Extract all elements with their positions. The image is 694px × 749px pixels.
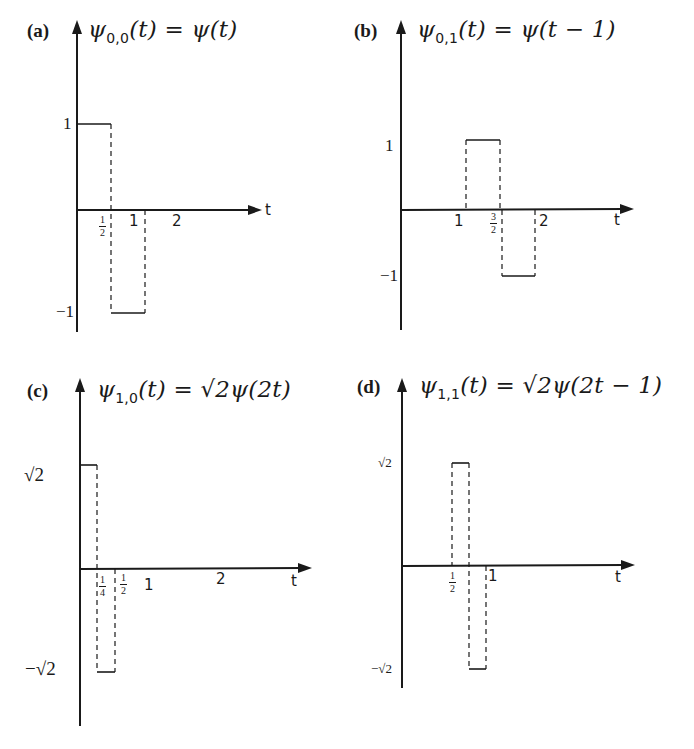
x-axis-label: t — [265, 201, 271, 219]
x-tick-half: 12 — [99, 215, 106, 238]
panel-d: (d) ψ1,1(t) = √2ψ(2t − 1) √2 −√2 12 1 t — [347, 370, 694, 749]
panel-title: ψ0,0(t) = ψ(t) — [88, 16, 237, 46]
panel-a: (a) ψ0,0(t) = ψ(t) 1 −1 12 1 2 t — [0, 0, 347, 340]
y-tick-neg-sqrt2: −√2 — [371, 661, 392, 677]
x-tick-quarter: 14 — [99, 575, 106, 598]
y-tick-sqrt2: √2 — [24, 464, 44, 486]
x-axis-label: t — [615, 568, 621, 586]
y-tick-neg1: −1 — [380, 266, 398, 286]
panel-b: (b) ψ0,1(t) = ψ(t − 1) 1 −1 1 32 2 t — [347, 0, 694, 340]
x-axis-arrow-icon — [248, 205, 262, 215]
x-tick-2: 2 — [172, 212, 182, 230]
y-axis-arrow-icon — [397, 378, 407, 392]
x-tick-three-halves: 32 — [490, 212, 497, 235]
panel-a-plot — [0, 0, 347, 340]
x-tick-half: 12 — [449, 571, 456, 594]
x-tick-1: 1 — [144, 576, 154, 594]
panel-title: ψ1,0(t) = √2ψ(2t) — [97, 376, 291, 406]
x-tick-half: 12 — [120, 573, 127, 596]
y-axis-arrow-icon — [396, 20, 406, 34]
panel-b-plot — [347, 0, 694, 340]
panel-label: (c) — [27, 380, 48, 402]
x-tick-1: 1 — [454, 212, 464, 230]
x-axis — [401, 209, 625, 210]
x-tick-1: 1 — [129, 212, 139, 230]
y-tick-1: 1 — [385, 136, 394, 156]
y-axis-arrow-icon — [72, 20, 82, 34]
panel-d-plot — [347, 370, 694, 749]
panel-label: (a) — [27, 20, 49, 42]
x-axis-arrow-icon — [298, 563, 312, 573]
x-axis-arrow-icon — [620, 204, 634, 214]
y-tick-neg1: −1 — [56, 302, 74, 322]
y-tick-sqrt2: √2 — [378, 455, 392, 471]
y-tick-neg-sqrt2: −√2 — [25, 658, 56, 680]
panel-c-plot — [0, 370, 347, 749]
panel-title: ψ0,1(t) = ψ(t − 1) — [417, 16, 616, 46]
x-tick-1: 1 — [488, 567, 498, 585]
y-tick-1: 1 — [63, 114, 72, 134]
x-tick-2: 2 — [539, 212, 549, 230]
x-axis-label: t — [614, 211, 620, 229]
panel-c: (c) ψ1,0(t) = √2ψ(2t) √2 −√2 14 12 1 2 t — [0, 370, 347, 749]
x-axis-arrow-icon — [621, 560, 635, 570]
panel-title: ψ1,1(t) = √2ψ(2t − 1) — [419, 372, 662, 402]
x-axis-label: t — [291, 572, 297, 590]
y-axis-arrow-icon — [75, 378, 85, 392]
panel-label: (b) — [354, 20, 377, 42]
x-axis — [80, 568, 302, 569]
panel-label: (d) — [357, 376, 380, 398]
x-tick-2: 2 — [216, 570, 226, 588]
x-axis — [402, 565, 625, 566]
